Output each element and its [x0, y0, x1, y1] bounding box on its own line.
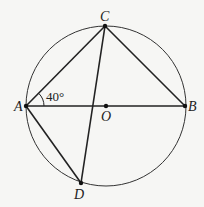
segment-ad — [26, 106, 81, 183]
label-b: B — [188, 99, 197, 114]
angle-arc-a — [39, 93, 44, 106]
point-c — [103, 24, 107, 28]
point-b — [183, 104, 187, 108]
segment-bc — [105, 26, 185, 106]
point-a — [24, 104, 28, 108]
segment-cd — [81, 26, 105, 183]
angle-label-40: 40° — [46, 89, 64, 104]
label-d: D — [73, 187, 84, 202]
point-d — [79, 181, 83, 185]
label-c: C — [100, 9, 110, 24]
segment-ac — [26, 26, 105, 106]
point-o — [104, 104, 108, 108]
label-o: O — [101, 109, 111, 124]
geometry-diagram: A B C D O 40° — [0, 0, 204, 207]
diagram-canvas: A B C D O 40° — [0, 0, 204, 207]
label-a: A — [13, 99, 23, 114]
